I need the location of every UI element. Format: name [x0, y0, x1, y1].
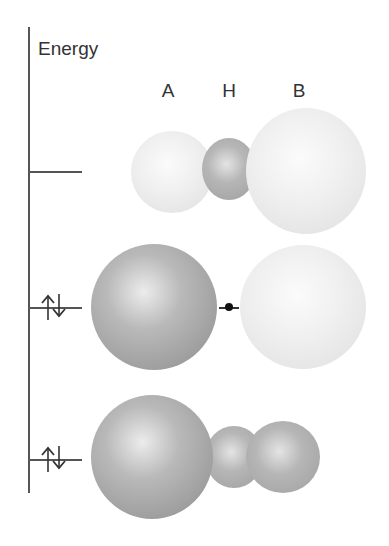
electron-pair-icon — [40, 444, 70, 474]
atom-label-b: B — [293, 80, 306, 102]
lobe-b — [246, 421, 320, 493]
energy-axis-label: Energy — [38, 38, 98, 60]
h-node-dot — [225, 303, 233, 311]
lobe-a — [91, 244, 217, 370]
lobe-b — [240, 245, 366, 369]
atom-label-h: H — [222, 80, 236, 102]
lobe-a — [91, 395, 213, 519]
lobe-b — [246, 108, 366, 234]
energy-level-antibonding — [28, 171, 82, 173]
lobe-a — [131, 131, 213, 213]
electron-pair-icon — [40, 292, 70, 322]
atom-label-a: A — [162, 80, 175, 102]
energy-axis — [28, 27, 30, 493]
